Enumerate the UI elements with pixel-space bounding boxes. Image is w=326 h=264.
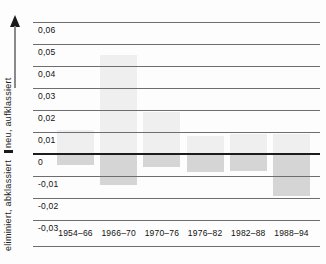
y-tick-label: 0,03 <box>38 91 55 101</box>
y-axis-label-positive: neu, aufklassiert <box>3 77 13 148</box>
y-tick-label: -0,02 <box>38 201 58 211</box>
bar-positive <box>100 55 137 154</box>
y-tick-label: -0,03 <box>38 223 58 233</box>
bar-negative <box>187 154 224 172</box>
y-tick-label: 0,06 <box>38 25 55 35</box>
bar-negative <box>57 154 94 165</box>
x-tick-label: 1988–94 <box>266 228 318 238</box>
bar-negative <box>100 154 137 185</box>
bar-positive <box>57 130 94 154</box>
bar-negative <box>230 154 267 171</box>
bar-positive <box>143 112 180 154</box>
gridline <box>33 220 320 221</box>
y-tick-label: 0,01 <box>38 135 55 145</box>
y-tick-label: 0,05 <box>38 47 55 57</box>
gridline <box>33 66 320 67</box>
bottom-border-line <box>33 246 320 247</box>
y-tick-label: 0 <box>38 157 43 167</box>
bar-negative <box>273 154 310 196</box>
y-tick-label: 0,02 <box>38 113 55 123</box>
gridline <box>33 176 320 177</box>
bar-positive <box>230 134 267 154</box>
gridline <box>33 44 320 45</box>
bar-negative <box>143 154 180 167</box>
bar-chart: neu, aufklassiert eliminiert, abklassier… <box>0 0 326 264</box>
y-axis-label-negative: eliminiert, abklassiert <box>3 160 13 251</box>
y-tick-label: -0,01 <box>38 179 58 189</box>
up-arrow-shaft <box>14 26 16 88</box>
zero-tick-mark <box>4 150 13 153</box>
bar-positive <box>187 136 224 154</box>
gridline <box>33 22 320 23</box>
gridline <box>33 88 320 89</box>
gridline <box>33 110 320 111</box>
gridline <box>33 132 320 133</box>
y-tick-label: 0,04 <box>38 69 55 79</box>
bar-positive <box>273 134 310 154</box>
gridline <box>33 198 320 199</box>
zero-axis-line <box>33 153 320 155</box>
